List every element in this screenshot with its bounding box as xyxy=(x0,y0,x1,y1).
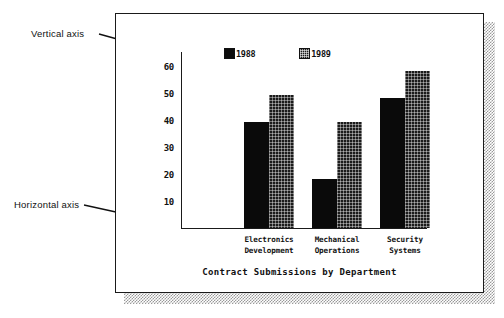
bar-1989[interactable] xyxy=(269,95,294,228)
x-axis-category-label: Electronics Development xyxy=(233,235,305,256)
bar-group xyxy=(244,52,294,228)
plot-area xyxy=(182,52,427,228)
y-axis-tick-40: 40 xyxy=(140,116,174,126)
bar-1988[interactable] xyxy=(244,122,269,228)
annotation-label-horizontal-axis: Horizontal axis xyxy=(14,199,79,210)
chart-title: Contract Submissions by Department xyxy=(116,267,483,277)
bar-group xyxy=(380,52,430,228)
y-axis-tick-10: 10 xyxy=(140,197,174,207)
bar-1989[interactable] xyxy=(337,122,362,228)
horizontal-axis-line xyxy=(181,228,427,229)
x-axis-category-label: Mechanical Operations xyxy=(301,235,373,256)
x-axis-category-labels: Electronics DevelopmentMechanical Operat… xyxy=(182,235,432,265)
slide-frame: 1988 1989 102030405060 Electronics Devel… xyxy=(115,13,484,293)
screenshot-root: Vertical axis Horizontal axis 1988 1989 … xyxy=(0,0,504,318)
bar-chart: 1988 1989 102030405060 Electronics Devel… xyxy=(116,14,483,292)
bar-1988[interactable] xyxy=(380,98,405,228)
y-axis-tick-labels: 102030405060 xyxy=(140,52,174,229)
bar-group xyxy=(312,52,362,228)
bar-1988[interactable] xyxy=(312,179,337,228)
y-axis-tick-20: 20 xyxy=(140,170,174,180)
y-axis-tick-50: 50 xyxy=(140,89,174,99)
y-axis-tick-30: 30 xyxy=(140,143,174,153)
y-axis-tick-60: 60 xyxy=(140,62,174,72)
annotation-label-vertical-axis: Vertical axis xyxy=(31,28,84,39)
x-axis-category-label: Security Systems xyxy=(369,235,441,256)
bar-1989[interactable] xyxy=(405,71,430,228)
